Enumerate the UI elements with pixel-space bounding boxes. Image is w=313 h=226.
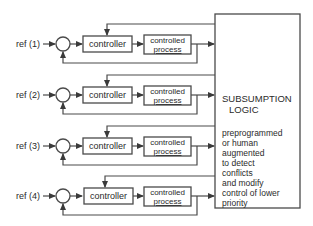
ref-label: ref (3) <box>16 141 40 151</box>
process-label-line1: controlled <box>150 188 185 197</box>
process-label-line1: controlled <box>150 138 185 147</box>
ref-label: ref (2) <box>16 90 40 100</box>
subsumption-desc-line: control of lower <box>222 188 280 198</box>
control-loop-4: ref (4) controller controlled process <box>16 176 215 215</box>
subsumption-desc-line: priority <box>222 198 248 208</box>
ref-label: ref (4) <box>16 191 40 201</box>
summing-junction <box>56 139 70 153</box>
process-label-line1: controlled <box>150 87 185 96</box>
summing-junction <box>56 189 70 203</box>
subsumption-desc-line: augmented <box>222 148 265 158</box>
control-loop-2: ref (2) controller controlled process <box>16 75 215 114</box>
subsumption-title-line2: LOGIC <box>229 104 259 115</box>
process-label-line1: controlled <box>150 36 185 45</box>
subsumption-desc-line: preprogrammed <box>222 128 283 138</box>
process-label-line2: process <box>153 45 181 54</box>
ref-label: ref (1) <box>16 39 40 49</box>
subsumption-title-line1: SUBSUMPTION <box>222 93 292 104</box>
subsumption-logic-block: SUBSUMPTION LOGIC preprogrammed or human… <box>215 14 300 208</box>
summing-junction <box>56 88 70 102</box>
subsumption-diagram: SUBSUMPTION LOGIC preprogrammed or human… <box>0 0 313 226</box>
controller-label: controller <box>89 141 126 151</box>
controller-label: controller <box>89 90 126 100</box>
summing-junction <box>56 37 70 51</box>
process-label-line2: process <box>153 147 181 156</box>
subsumption-desc-line: and modify <box>222 178 264 188</box>
controller-label: controller <box>89 39 126 49</box>
subsumption-desc-line: conflicts <box>222 168 253 178</box>
process-label-line2: process <box>153 96 181 105</box>
control-loop-1: ref (1) controller controlled process <box>16 24 215 63</box>
control-loop-3: ref (3) controller controlled process <box>16 126 215 165</box>
subsumption-desc-line: or human <box>222 138 258 148</box>
subsumption-desc-line: to detect <box>222 158 255 168</box>
controller-label: controller <box>90 191 127 201</box>
process-label-line2: process <box>153 197 181 206</box>
